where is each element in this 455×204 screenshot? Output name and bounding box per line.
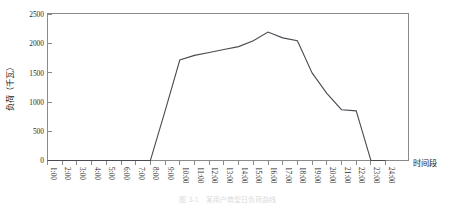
figure-caption: 图 3-1 某用户典型日负荷曲线 — [0, 196, 455, 204]
x-tick-label: 15:00 — [254, 167, 262, 184]
x-tick-label: 2:00 — [63, 167, 71, 180]
x-tick-label: 22:00 — [357, 167, 365, 184]
x-tick-label: 14:00 — [240, 167, 248, 184]
y-tick-label: 1000 — [29, 98, 44, 107]
x-tick-label: 7:00 — [137, 167, 145, 180]
x-tick-label: 23:00 — [372, 167, 380, 184]
x-tick-label: 11:00 — [196, 167, 204, 184]
x-tick-label: 24:00 — [387, 167, 395, 184]
x-axis-ticks — [48, 161, 386, 165]
x-axis-title: 时间段 — [413, 158, 437, 168]
x-tick-label: 20:00 — [328, 167, 336, 184]
y-axis-title: 负荷（千瓦） — [5, 63, 15, 111]
x-tick-label: 4:00 — [93, 167, 101, 180]
x-tick-label: 16:00 — [269, 167, 277, 184]
x-tick-label: 5:00 — [107, 167, 115, 180]
x-tick-label: 17:00 — [284, 167, 292, 184]
x-tick-label: 21:00 — [343, 167, 351, 184]
x-tick-label: 8:00 — [151, 167, 159, 180]
x-tick-label: 3:00 — [78, 167, 86, 180]
load-curve-chart: 0 500 1000 1500 2000 2500 负荷（千瓦） — [0, 0, 455, 204]
x-axis-tick-labels: 1:00 2:00 3:00 4:00 5:00 6:00 7:00 8:00 … — [49, 167, 395, 184]
x-tick-label: 18:00 — [298, 167, 306, 184]
x-tick-label: 1:00 — [49, 167, 57, 180]
x-tick-label: 6:00 — [122, 167, 130, 180]
y-axis-title-group: 负荷（千瓦） — [5, 63, 15, 111]
y-tick-label: 2500 — [29, 10, 44, 19]
load-curve-figure: 0 500 1000 1500 2000 2500 负荷（千瓦） — [0, 0, 455, 204]
y-tick-label: 2000 — [29, 39, 44, 48]
x-tick-label: 10:00 — [181, 167, 189, 184]
plot-frame — [48, 14, 409, 161]
y-tick-label: 1500 — [29, 69, 44, 78]
x-tick-label: 9:00 — [166, 167, 174, 180]
y-axis-ticks — [48, 15, 52, 161]
x-tick-label: 13:00 — [225, 167, 233, 184]
y-axis-tick-labels: 0 500 1000 1500 2000 2500 — [29, 10, 44, 165]
load-curve-series — [48, 32, 386, 160]
x-tick-label: 12:00 — [210, 167, 218, 184]
x-tick-label: 19:00 — [313, 167, 321, 184]
y-tick-label: 500 — [33, 127, 44, 136]
y-tick-label: 0 — [40, 156, 44, 165]
